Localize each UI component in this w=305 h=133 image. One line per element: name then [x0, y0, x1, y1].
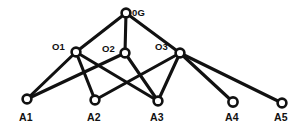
node-0G[interactable] [122, 9, 131, 18]
diagram-canvas: 0GO1O2O3A1A2A3A4A5 [0, 0, 305, 133]
node-label-O1: O1 [52, 42, 65, 52]
node-label-O3: O3 [155, 42, 168, 52]
edge-O1-A1 [27, 52, 76, 99]
edges-group [27, 13, 282, 103]
node-label-O2: O2 [102, 44, 115, 54]
edge-O1-A3 [76, 52, 158, 101]
edge-O3-A4 [180, 53, 233, 102]
node-label-A3: A3 [150, 112, 164, 123]
node-label-A4: A4 [225, 112, 239, 123]
node-A1[interactable] [23, 95, 32, 104]
node-O3[interactable] [176, 49, 185, 58]
edge-O3-A5 [180, 53, 282, 103]
node-A5[interactable] [278, 99, 287, 108]
edge-0G-O1 [76, 13, 126, 52]
node-O2[interactable] [121, 49, 130, 58]
edge-0G-O2 [125, 13, 126, 53]
node-label-A5: A5 [274, 112, 288, 123]
edge-O2-A3 [125, 53, 158, 101]
node-A3[interactable] [154, 97, 163, 106]
node-A2[interactable] [91, 96, 100, 105]
node-A4[interactable] [228, 97, 237, 106]
edge-0G-O3 [126, 13, 180, 53]
node-O1[interactable] [72, 48, 81, 57]
node-label-0G: 0G [132, 8, 145, 18]
nodes-group [23, 9, 287, 108]
node-label-A2: A2 [87, 112, 101, 123]
node-label-A1: A1 [19, 112, 33, 123]
